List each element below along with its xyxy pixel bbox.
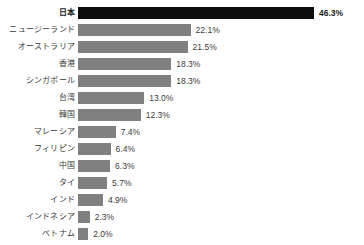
- bar-chart-row: オーストラリア21.5%: [0, 41, 364, 53]
- value-label: 21.5%: [188, 41, 217, 53]
- bar-chart: 日本46.3%ニュージーランド22.1%オーストラリア21.5%香港18.3%シ…: [0, 0, 364, 245]
- bar-area: 2.0%: [78, 228, 364, 240]
- bar-chart-row: 香港18.3%: [0, 58, 364, 70]
- bar: [78, 228, 88, 240]
- category-label: 香港: [0, 58, 78, 70]
- value-label: 6.4%: [111, 143, 135, 155]
- bar-area: 5.7%: [78, 177, 364, 189]
- bar-area: 21.5%: [78, 41, 364, 53]
- bar-chart-row: タイ5.7%: [0, 177, 364, 189]
- bar-chart-row: 韓国12.3%: [0, 109, 364, 121]
- bar: [78, 7, 314, 19]
- bar-area: 4.9%: [78, 194, 364, 206]
- bar: [78, 211, 90, 223]
- bar-area: 12.3%: [78, 109, 364, 121]
- bar: [78, 41, 188, 53]
- bar-chart-row: フィリピン6.4%: [0, 143, 364, 155]
- category-label: 日本: [0, 7, 78, 19]
- bar-area: 13.0%: [78, 92, 364, 104]
- value-label: 7.4%: [116, 126, 140, 138]
- bar: [78, 75, 171, 87]
- bar-area: 6.3%: [78, 160, 364, 172]
- value-label: 2.3%: [90, 211, 114, 223]
- value-label: 18.3%: [171, 75, 200, 87]
- category-label: ニュージーランド: [0, 24, 78, 36]
- bar: [78, 24, 191, 36]
- category-label: ベトナム: [0, 228, 78, 240]
- value-label: 18.3%: [171, 58, 200, 70]
- bar-chart-row: インド4.9%: [0, 194, 364, 206]
- value-label: 5.7%: [107, 177, 131, 189]
- bar-area: 46.3%: [78, 7, 364, 19]
- bar: [78, 177, 107, 189]
- value-label: 22.1%: [191, 24, 220, 36]
- bar-chart-row: 中国6.3%: [0, 160, 364, 172]
- bar-chart-rows: 日本46.3%ニュージーランド22.1%オーストラリア21.5%香港18.3%シ…: [0, 7, 364, 240]
- value-label: 6.3%: [110, 160, 134, 172]
- value-label: 12.3%: [141, 109, 170, 121]
- bar-area: 2.3%: [78, 211, 364, 223]
- bar-chart-row: ニュージーランド22.1%: [0, 24, 364, 36]
- category-label: 中国: [0, 160, 78, 172]
- bar: [78, 143, 111, 155]
- bar-area: 22.1%: [78, 24, 364, 36]
- category-label: オーストラリア: [0, 41, 78, 53]
- category-label: マレーシア: [0, 126, 78, 138]
- bar-area: 6.4%: [78, 143, 364, 155]
- category-label: タイ: [0, 177, 78, 189]
- bar-area: 18.3%: [78, 75, 364, 87]
- bar-chart-row: インドネシア2.3%: [0, 211, 364, 223]
- bar-chart-row: マレーシア7.4%: [0, 126, 364, 138]
- bar-chart-row: 台湾13.0%: [0, 92, 364, 104]
- value-label: 46.3%: [314, 7, 343, 19]
- category-label: シンガポール: [0, 75, 78, 87]
- value-label: 2.0%: [88, 228, 112, 240]
- value-label: 4.9%: [103, 194, 127, 206]
- category-label: インド: [0, 194, 78, 206]
- bar: [78, 58, 171, 70]
- bar: [78, 109, 141, 121]
- bar-area: 18.3%: [78, 58, 364, 70]
- bar-chart-row: ベトナム2.0%: [0, 228, 364, 240]
- category-label: 台湾: [0, 92, 78, 104]
- category-label: 韓国: [0, 109, 78, 121]
- bar: [78, 126, 116, 138]
- category-label: インドネシア: [0, 211, 78, 223]
- bar-chart-row: 日本46.3%: [0, 7, 364, 19]
- category-label: フィリピン: [0, 143, 78, 155]
- bar: [78, 160, 110, 172]
- bar-chart-row: シンガポール18.3%: [0, 75, 364, 87]
- bar: [78, 194, 103, 206]
- value-label: 13.0%: [144, 92, 173, 104]
- bar-area: 7.4%: [78, 126, 364, 138]
- bar: [78, 92, 144, 104]
